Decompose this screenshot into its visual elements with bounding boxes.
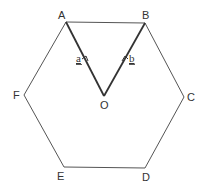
label-O: O: [100, 99, 109, 111]
label-E: E: [57, 170, 64, 182]
vector-b-line: [104, 23, 145, 96]
label-C: C: [187, 91, 195, 103]
vector-a-line: [66, 22, 104, 96]
vector-b-label: b: [129, 52, 135, 64]
label-F: F: [13, 89, 20, 101]
label-D: D: [142, 171, 150, 183]
label-A: A: [58, 9, 66, 21]
vector-a-label: a: [76, 52, 81, 64]
label-B: B: [142, 9, 149, 21]
hexagon-diagram: A B C D E F O a b: [0, 0, 205, 194]
